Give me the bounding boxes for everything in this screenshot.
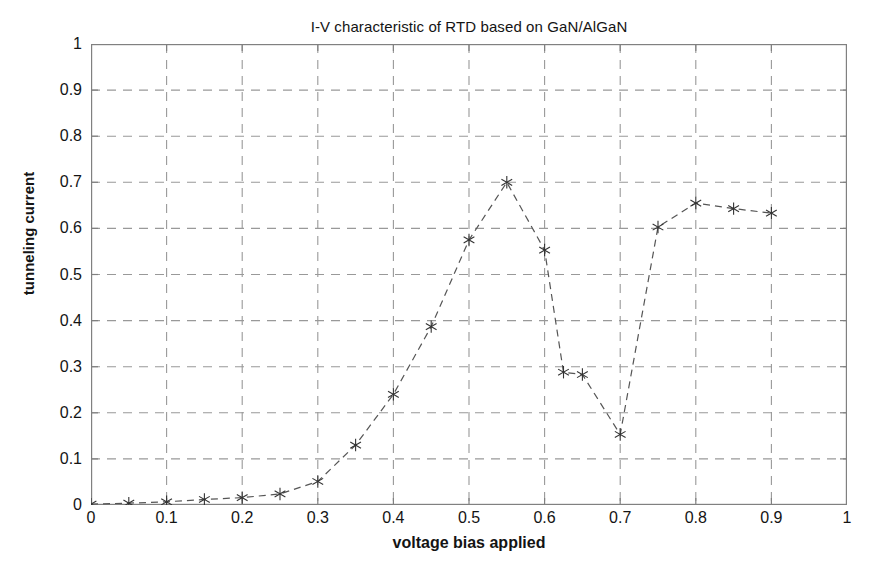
x-tick-label: 0.8 — [685, 509, 707, 527]
x-tick-label: 0.4 — [382, 509, 404, 527]
y-tick-label: 0.7 — [60, 173, 82, 191]
y-tick-label: 0.5 — [60, 266, 82, 284]
data-point-marker — [464, 234, 475, 246]
data-point-marker — [123, 497, 134, 505]
page-title: I-V characteristic of RTD based on GaN/A… — [91, 18, 847, 35]
y-tick-label: 0.1 — [60, 450, 82, 468]
data-markers — [91, 176, 777, 505]
x-tick-label: 0.5 — [458, 509, 480, 527]
plot-area — [91, 44, 847, 505]
y-tick-label: 0 — [73, 496, 82, 514]
x-tick-label: 0 — [87, 509, 96, 527]
y-tick-label: 0.3 — [60, 358, 82, 376]
y-tick-label: 1 — [73, 35, 82, 53]
data-series-line — [91, 182, 771, 504]
data-point-marker — [426, 320, 437, 332]
x-tick-label: 0.1 — [155, 509, 177, 527]
data-point-marker — [653, 221, 664, 233]
y-tick-label: 0.6 — [60, 219, 82, 237]
data-point-marker — [161, 496, 172, 505]
y-tick-label: 0.2 — [60, 404, 82, 422]
grid-lines — [91, 44, 847, 505]
y-tick-label: 0.8 — [60, 127, 82, 145]
data-point-marker — [539, 244, 550, 256]
x-axis-tick-labels: 00.10.20.30.40.50.60.70.80.91 — [91, 509, 847, 533]
data-point-marker — [690, 197, 701, 209]
x-tick-label: 0.3 — [307, 509, 329, 527]
x-tick-label: 1 — [843, 509, 852, 527]
x-tick-label: 0.9 — [760, 509, 782, 527]
x-tick-label: 0.2 — [231, 509, 253, 527]
y-tick-label: 0.4 — [60, 312, 82, 330]
data-point-marker — [615, 428, 626, 440]
figure-canvas: I-V characteristic of RTD based on GaN/A… — [0, 0, 873, 577]
data-point-marker — [350, 439, 361, 451]
plot-svg — [91, 44, 847, 505]
data-point-marker — [558, 366, 569, 378]
x-axis-label: voltage bias applied — [91, 534, 847, 552]
y-axis-tick-labels: 00.10.20.30.40.50.60.70.80.91 — [10, 44, 82, 505]
x-tick-label: 0.7 — [609, 509, 631, 527]
data-point-marker — [577, 368, 588, 380]
y-tick-label: 0.9 — [60, 81, 82, 99]
x-tick-label: 0.6 — [533, 509, 555, 527]
